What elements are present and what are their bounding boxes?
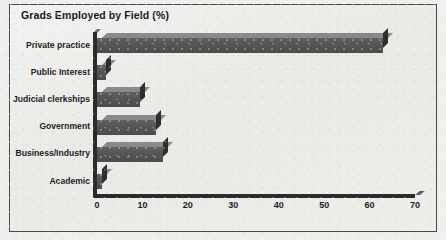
bar-front-face: [97, 65, 106, 80]
bar-front-face: [97, 147, 163, 162]
bar-side-face: [106, 55, 111, 75]
bar-side-face: [156, 110, 161, 130]
bar: [97, 169, 102, 184]
bar: [97, 60, 106, 75]
bar: [97, 115, 156, 130]
x-axis-end-cap: [415, 191, 425, 195]
plot-area: Private practicePublic InterestJudicial …: [0, 0, 446, 240]
bar-front-face: [97, 92, 140, 107]
bar: [97, 142, 163, 157]
x-axis-line: [93, 194, 415, 198]
bar-side-face: [102, 164, 107, 184]
x-tick-label: 10: [137, 200, 147, 210]
x-tick-label: 70: [410, 200, 420, 210]
x-tick-label: 60: [365, 200, 375, 210]
chart-title: Grads Employed by Field (%): [21, 9, 169, 21]
bar-front-face: [97, 174, 102, 189]
chart-screenshot: Grads Employed by Field (%) Private prac…: [0, 0, 446, 240]
category-label: Academic: [49, 176, 90, 186]
x-tick-label: 0: [94, 200, 99, 210]
bar-front-face: [97, 38, 383, 53]
category-label: Government: [39, 121, 90, 131]
x-tick-label: 30: [228, 200, 238, 210]
category-label: Public Interest: [31, 67, 90, 77]
bar: [97, 33, 383, 48]
y-axis-line: [93, 32, 97, 198]
category-label: Business/Industry: [16, 148, 91, 158]
category-label: Judicial clerkships: [13, 94, 90, 104]
bar-side-face: [163, 137, 168, 157]
bar-front-face: [97, 120, 156, 135]
bar-side-face: [140, 82, 145, 102]
bar-side-face: [383, 28, 388, 48]
x-tick-label: 40: [274, 200, 284, 210]
x-tick-label: 20: [183, 200, 193, 210]
category-label: Private practice: [26, 40, 90, 50]
bar: [97, 87, 140, 102]
x-tick-label: 50: [319, 200, 329, 210]
